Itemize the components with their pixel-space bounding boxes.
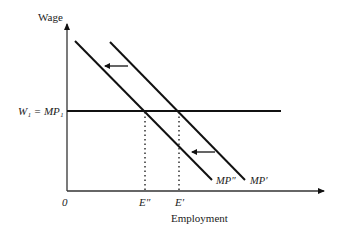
wage-line-label: W₁ = MP₁ [18, 105, 64, 117]
y-axis-label: Wage [38, 11, 63, 23]
mp-prime-label: MP′ [249, 175, 268, 186]
labor-demand-diagram: Wage Employment 0 W₁ = MP₁ MP″ MP′ E″ E′ [0, 0, 340, 235]
e-prime-label: E′ [174, 196, 185, 208]
origin-label: 0 [62, 196, 68, 208]
x-axis-label: Employment [171, 212, 228, 224]
e-double-prime-label: E″ [138, 196, 151, 208]
mp-double-prime-label: MP″ [215, 175, 236, 186]
